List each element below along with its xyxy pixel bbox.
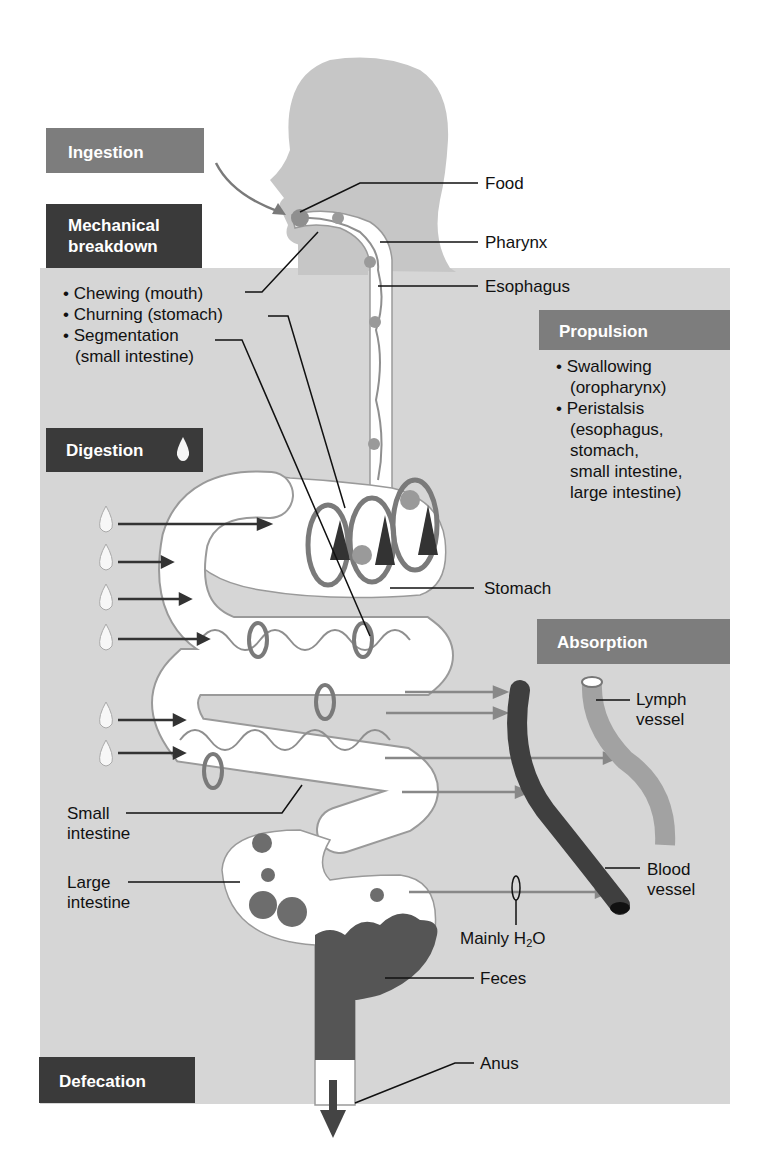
list-item: • Peristalsis xyxy=(556,398,682,419)
list-item: (esophagus, xyxy=(556,419,682,440)
stomach-label: Stomach xyxy=(484,579,551,599)
large-intestine-label: Large intestine xyxy=(67,873,130,913)
esophagus-label: Esophagus xyxy=(485,277,570,297)
mechanical-breakdown-list: • Chewing (mouth) • Churning (stomach) •… xyxy=(63,283,223,367)
list-item: (oropharynx) xyxy=(556,377,682,398)
list-item: • Churning (stomach) xyxy=(63,304,223,325)
ingestion-header: Ingestion xyxy=(46,128,204,173)
mechanical-breakdown-label-line1: Mechanical xyxy=(68,215,202,236)
propulsion-label: Propulsion xyxy=(559,322,648,341)
list-item: (small intestine) xyxy=(63,346,223,367)
drop-icon xyxy=(176,437,190,461)
blood-vessel-label: Blood vessel xyxy=(647,860,695,900)
list-item: large intestine) xyxy=(556,482,682,503)
digestion-label: Digestion xyxy=(66,441,143,460)
ingestion-arrow xyxy=(216,163,280,212)
list-item: small intestine, xyxy=(556,461,682,482)
small-intestine-label: Small intestine xyxy=(67,804,130,844)
defecation-label: Defecation xyxy=(59,1072,146,1091)
food-label: Food xyxy=(485,174,524,194)
list-item: • Segmentation xyxy=(63,325,223,346)
absorption-label: Absorption xyxy=(557,633,648,652)
feces-label: Feces xyxy=(480,969,526,989)
list-item: • Chewing (mouth) xyxy=(63,283,223,304)
propulsion-header: Propulsion xyxy=(539,310,730,350)
lymph-vessel-label: Lymph vessel xyxy=(636,690,686,730)
list-item: • Swallowing xyxy=(556,356,682,377)
mainly-h2o-label: Mainly H2O xyxy=(460,929,545,949)
anus-label: Anus xyxy=(480,1054,519,1074)
mechanical-breakdown-header: Mechanical breakdown xyxy=(46,204,202,268)
defecation-header: Defecation xyxy=(39,1057,195,1103)
digestive-diagram-artwork xyxy=(0,0,762,1174)
digestion-header: Digestion xyxy=(46,428,203,472)
mechanical-breakdown-label-line2: breakdown xyxy=(68,236,202,257)
propulsion-list: • Swallowing (oropharynx) • Peristalsis … xyxy=(556,356,682,503)
pharynx-label: Pharynx xyxy=(485,233,547,253)
absorption-header: Absorption xyxy=(537,619,730,664)
list-item: stomach, xyxy=(556,440,682,461)
defecation-arrow xyxy=(320,1110,346,1138)
ingestion-label: Ingestion xyxy=(68,143,144,162)
